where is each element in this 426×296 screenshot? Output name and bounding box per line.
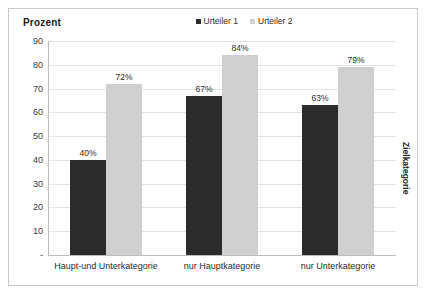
y-axis-tick-label: 70: [33, 84, 43, 94]
y-axis-tick-label: 20: [33, 202, 43, 212]
bar-value-label: 84%: [231, 43, 248, 53]
bar: [222, 55, 258, 255]
legend-label: Urteiler 2: [258, 16, 292, 26]
bar: [338, 67, 374, 255]
legend-item-urteiler-1: Urteiler 1: [196, 16, 238, 26]
bar-value-label: 79%: [347, 55, 364, 65]
x-axis-title: Zielkategorie: [401, 142, 411, 194]
bar-value-label: 67%: [195, 84, 212, 94]
legend-item-urteiler-2: Urteiler 2: [250, 16, 292, 26]
category-label: nur Unterkategorie: [301, 261, 376, 271]
category-label: Haupt-und Unterkategorie: [54, 261, 158, 271]
legend-swatch-icon: [196, 19, 201, 24]
y-axis-title: Prozent: [23, 17, 61, 28]
y-axis-tick-label: 80: [33, 60, 43, 70]
bars-layer: 40%72%67%84%63%79%: [48, 41, 396, 256]
category-label: nur Hauptkategorie: [184, 261, 261, 271]
chart-legend: Urteiler 1 Urteiler 2: [129, 16, 359, 26]
legend-swatch-icon: [250, 19, 255, 24]
y-axis-tick-label: 50: [33, 131, 43, 141]
y-axis-tick-label: 60: [33, 107, 43, 117]
bar-value-label: 40%: [79, 148, 96, 158]
y-axis-tick-label: -: [40, 250, 43, 260]
y-axis-tick-label: 90: [33, 36, 43, 46]
category-axis-labels: Haupt-und Unterkategorienur Hauptkategor…: [48, 261, 396, 277]
bar: [302, 105, 338, 255]
bar-value-label: 63%: [311, 93, 328, 103]
bar: [106, 84, 142, 255]
y-axis-tick-label: 40: [33, 155, 43, 165]
y-axis-tick-label: 30: [33, 179, 43, 189]
plot-area: -102030405060708090 40%72%67%84%63%79%: [48, 41, 396, 256]
bar-value-label: 72%: [115, 72, 132, 82]
chart-frame: Prozent Urteiler 1 Urteiler 2 -102030405…: [8, 8, 418, 286]
legend-label: Urteiler 1: [204, 16, 238, 26]
bar: [70, 160, 106, 255]
y-axis-tick-label: 10: [33, 226, 43, 236]
bar: [186, 96, 222, 255]
